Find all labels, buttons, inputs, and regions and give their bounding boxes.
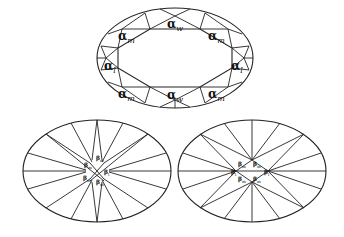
label-alpha-m-upper-right: αm [208,29,225,45]
label-alpha-m-lower-right: αm [208,87,225,103]
label-alpha-w-bottom: αw [167,88,183,104]
top-ellipse-panel: αw αm αm αl αl αm αm αw [97,8,253,108]
label-beta-m-1: βm [84,161,92,170]
label-beta-m-6: βm [253,160,261,169]
bottom-left-ellipse-panel: βm βm βm βm βl [23,120,171,222]
bottom-right-radial-rays [178,120,326,222]
label-beta-m-5: βm [238,160,246,169]
label-beta-l-1: βl [104,168,110,177]
label-beta-m-7: βm [238,175,246,184]
label-alpha-m-lower-left: αm [118,87,135,103]
label-beta-m-2: βm [96,154,104,163]
bottom-right-ellipse-panel: βm βm βm βm βl βl [178,120,326,222]
label-alpha-m-upper-left: αm [118,29,135,45]
label-alpha-l-right: αl [231,59,243,75]
bottom-left-star-rays [23,120,171,222]
label-alpha-l-left: αl [104,59,116,75]
label-beta-m-4: βm [96,178,104,187]
facet-diagram: αw αm αm αl αl αm αm αw [0,0,344,237]
label-beta-m-3: βm [83,174,91,183]
